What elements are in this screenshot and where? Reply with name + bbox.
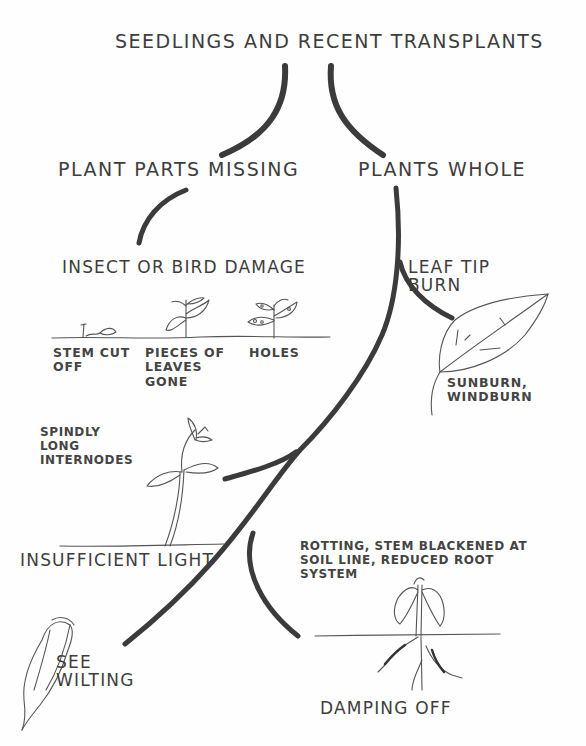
diagram-title: Seedlings and recent transplants — [115, 32, 544, 52]
symptom-stem-cut-off: Stem cut off — [53, 346, 130, 375]
node-plants-whole: Plants whole — [358, 160, 526, 180]
note-damping-off-symptoms: Rotting, stem blackened at soil line, re… — [300, 540, 527, 581]
node-leaf-tip-burn: Leaf tip burn — [408, 259, 490, 295]
note-spindly-long-internodes: Spindly long internodes — [40, 426, 133, 467]
node-damping-off: Damping off — [320, 700, 452, 718]
node-see-wilting: See wilting — [56, 654, 135, 690]
soil-line-light-row — [60, 544, 224, 546]
diagnostic-tree-diagram: Seedlings and recent transplants Plant p… — [0, 0, 586, 746]
node-insect-or-bird-damage: Insect or bird damage — [62, 259, 306, 277]
cut-stem-sketch — [81, 324, 116, 337]
symptom-pieces-of-leaves-gone: Pieces of leaves gone — [145, 346, 225, 389]
node-plant-parts-missing: Plant parts missing — [58, 160, 299, 180]
symptom-holes: Holes — [249, 346, 300, 360]
chewed-leaves-plant-sketch — [166, 298, 209, 337]
soil-line-damping-row — [315, 634, 500, 636]
node-insufficient-light: Insufficient light — [20, 552, 214, 570]
holed-leaves-plant-sketch — [248, 299, 297, 338]
soil-line-insect-row — [52, 336, 330, 338]
spindly-seedling-sketch — [147, 418, 218, 546]
note-sunburn-windburn: Sunburn, windburn — [447, 376, 532, 405]
